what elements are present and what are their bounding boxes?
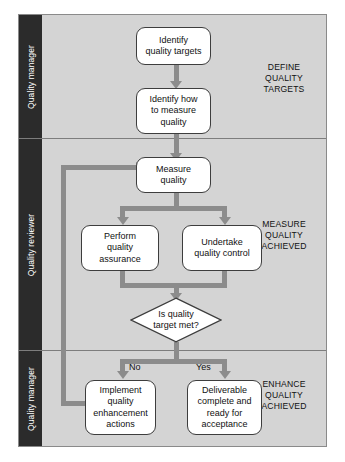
node-undertake-quality-control[interactable]: Undertake quality control [182, 225, 262, 271]
phase-label-define-quality-targets: DEFINE QUALITY TARGETS [248, 62, 320, 96]
node-measure-quality-line-2: quality [156, 175, 191, 186]
node-implement-line-1: Implement [93, 385, 148, 396]
node-implement-line-2: quality [93, 396, 148, 407]
node-perform-qa-line-1: Perform [99, 231, 141, 242]
node-perform-qa-line-3: assurance [99, 254, 141, 265]
node-perform-qa-line-2: quality [99, 242, 141, 253]
phase-label-define-line-3: TARGETS [248, 84, 320, 95]
node-implement-quality-enhancement-actions[interactable]: Implement quality enhancement actions [85, 380, 156, 435]
node-deliverable-line-1: Deliverable [197, 385, 251, 396]
branch-label-yes: Yes [196, 362, 211, 372]
node-implement-line-3: enhancement [93, 408, 148, 419]
phase-label-define-line-1: DEFINE [248, 62, 320, 73]
connector-loopback-top-segment [61, 165, 143, 170]
node-identify-quality-targets-line-2: quality targets [145, 46, 201, 57]
connector-measure-split-bar [120, 206, 227, 211]
node-measure-quality[interactable]: Measure quality [136, 157, 211, 193]
node-identify-how-line-1: Identify how [149, 94, 197, 105]
node-is-quality-target-met-text: Is quality target met? [130, 309, 222, 332]
diagram-canvas: Quality manager Quality reviewer Quality… [0, 0, 345, 462]
node-decision-line-2: target met? [130, 320, 222, 331]
node-is-quality-target-met[interactable]: Is quality target met? [130, 297, 222, 343]
node-identify-quality-targets[interactable]: Identify quality targets [136, 27, 211, 65]
connector-measure-to-qc-arrowhead [219, 217, 231, 225]
connector-decision-yes-arrowhead [219, 371, 231, 379]
node-identify-how-to-measure-quality[interactable]: Identify how to measure quality [136, 88, 211, 134]
node-deliverable-line-3: ready for [197, 408, 251, 419]
swimlane-label-strip-quality-manager-top: Quality manager [19, 15, 42, 138]
swimlane-label-strip-quality-reviewer: Quality reviewer [19, 139, 42, 350]
node-deliverable-line-4: acceptance [197, 419, 251, 430]
node-perform-quality-assurance[interactable]: Perform quality assurance [81, 225, 159, 271]
swimlane-label-strip-quality-manager-bottom: Quality manager [19, 351, 42, 446]
node-undertake-qc-line-1: Undertake [194, 237, 250, 248]
node-deliverable-complete-and-ready-for-acceptance[interactable]: Deliverable complete and ready for accep… [187, 380, 262, 435]
connector-decision-no-arrowhead [117, 371, 129, 379]
connector-loopback-vertical-segment [61, 165, 66, 406]
phase-label-define-line-2: QUALITY [248, 73, 320, 84]
connector-measure-to-qa-arrowhead [117, 217, 129, 225]
branch-label-no: No [129, 362, 141, 372]
node-measure-quality-line-1: Measure [156, 164, 191, 175]
node-identify-how-line-3: quality [149, 117, 197, 128]
node-undertake-qc-line-2: quality control [194, 248, 250, 259]
node-identify-quality-targets-line-1: Identify [145, 35, 201, 46]
node-decision-line-1: Is quality [130, 309, 222, 320]
node-deliverable-line-2: complete and [197, 396, 251, 407]
swimlane-label-quality-reviewer: Quality reviewer [26, 213, 36, 276]
node-implement-line-4: actions [93, 419, 148, 430]
swimlane-label-quality-manager-top: Quality manager [26, 45, 36, 109]
node-identify-how-line-2: to measure [149, 105, 197, 116]
swimlane-label-quality-manager-bottom: Quality manager [26, 367, 36, 431]
swimlane-diagram-frame: Quality manager Quality reviewer Quality… [18, 14, 327, 447]
